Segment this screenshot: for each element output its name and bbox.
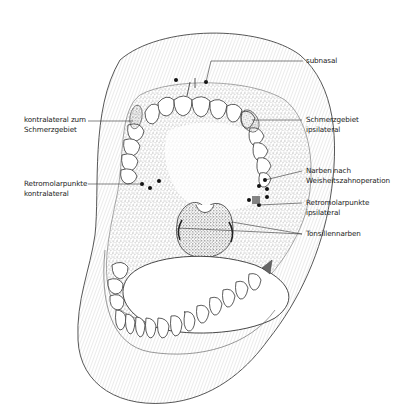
retromolar-contralateral-point-3 [157,179,161,183]
label-retro-kontra-line1: Retromolarpunkte [24,179,87,189]
label-kontralateral-line1: kontralateral zum [24,115,86,125]
label-retro-ipsi-line2: ipsilateral [306,208,369,218]
label-kontralateral-schmerzgebiet: kontralateral zum Schmerzgebiet [24,115,86,134]
retromolar-ipsilateral-point-1 [247,198,251,202]
label-schmerzgebiet-ipsilateral: Schmerzgebiet ipsilateral [306,115,359,134]
label-retromolar-ipsilateral: Retromolarpunkte ipsilateral [306,198,369,217]
label-narben: Narben nach Weisheitszahnoperation [306,166,390,185]
label-schmerz-line2: ipsilateral [306,125,359,135]
label-schmerz-line1: Schmerzgebiet [306,115,359,125]
label-tonsillennarben: Tonsillennarben [306,229,361,239]
retromolar-contralateral-point-2 [148,186,152,190]
scar-point-2 [257,184,261,188]
label-kontralateral-line2: Schmerzgebiet [24,125,86,135]
label-narben-line2: Weisheitszahnoperation [306,176,390,186]
label-subnasal-text: subnasal [306,56,337,65]
scar-point-4 [265,195,269,199]
label-subnasal: subnasal [306,56,337,66]
label-narben-line1: Narben nach [306,166,390,176]
retromolar-ipsilateral-area [252,196,260,204]
label-retromolar-kontralateral: Retromolarpunkte kontralateral [24,179,87,198]
label-retro-ipsi-line1: Retromolarpunkte [306,198,369,208]
label-retro-kontra-line2: kontralateral [24,189,87,199]
subnasal-point-left [174,78,178,82]
label-tonsillen-text: Tonsillennarben [306,229,361,238]
scar-point-3 [265,187,269,191]
